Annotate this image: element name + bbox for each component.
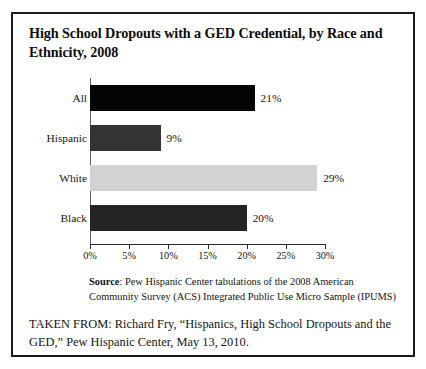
bar-track: 29% [90, 158, 410, 198]
bar-value-label: 21% [261, 78, 282, 118]
bar-track: 9% [90, 118, 410, 158]
x-axis-tick [129, 244, 130, 249]
bar-category-label: All [13, 78, 87, 118]
x-axis-tick-label: 25% [276, 250, 295, 261]
bar-value-label: 29% [323, 158, 344, 198]
bar-chart: All21%Hispanic9%White29%Black20% 0%5%10%… [13, 76, 413, 272]
x-axis-tick-label: 15% [198, 250, 217, 261]
bar-row: White29% [13, 158, 413, 198]
bar-track: 21% [90, 78, 410, 118]
bar [90, 85, 255, 111]
figure-title: High School Dropouts with a GED Credenti… [29, 24, 401, 61]
x-axis-tick-label: 5% [122, 250, 136, 261]
bar-row: All21% [13, 78, 413, 118]
x-axis-tick-label: 30% [316, 250, 335, 261]
taken-from-note: TAKEN FROM: Richard Fry, “Hispanics, Hig… [29, 316, 403, 352]
bar [90, 165, 317, 191]
x-axis-tick [325, 244, 326, 249]
source-label: Source [89, 276, 119, 287]
x-axis-tick [168, 244, 169, 249]
bar-category-label: Black [13, 198, 87, 238]
bar [90, 125, 161, 151]
x-axis-tick [208, 244, 209, 249]
x-axis-tick-label: 10% [159, 250, 178, 261]
x-axis-tick [247, 244, 248, 249]
source-text: Pew Hispanic Center tabulations of the 2… [89, 276, 396, 302]
bar [90, 205, 247, 231]
bar-row: Black20% [13, 198, 413, 238]
bar-track: 20% [90, 198, 410, 238]
bar-value-label: 9% [167, 118, 182, 158]
x-axis-tick-label: 0% [83, 250, 97, 261]
x-axis-tick [286, 244, 287, 249]
bar-value-label: 20% [253, 198, 274, 238]
figure-frame: High School Dropouts with a GED Credenti… [11, 12, 415, 357]
source-note: Source: Pew Hispanic Center tabulations … [89, 275, 403, 305]
bar-row: Hispanic9% [13, 118, 413, 158]
bar-category-label: White [13, 158, 87, 198]
bar-category-label: Hispanic [13, 118, 87, 158]
x-axis-tick-label: 20% [237, 250, 256, 261]
x-axis-tick [90, 244, 91, 249]
